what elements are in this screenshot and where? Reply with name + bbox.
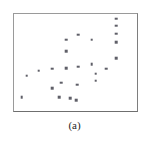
scatter-point <box>115 32 118 35</box>
scatter-point <box>115 24 118 27</box>
scatter-point <box>21 96 24 99</box>
scatter-point <box>115 18 118 21</box>
scatter-point <box>69 97 72 100</box>
figure-panel: (a) <box>0 0 149 141</box>
scatter-point <box>76 83 79 86</box>
scatter-point <box>65 38 68 41</box>
scatter-point <box>75 99 78 102</box>
scatter-point <box>77 66 80 69</box>
scatter-point <box>94 72 97 75</box>
scatter-plot-frame <box>13 13 138 112</box>
figure-caption: (a) <box>0 118 149 132</box>
scatter-points-layer <box>14 14 137 111</box>
scatter-point <box>25 74 28 77</box>
scatter-point <box>65 67 68 70</box>
scatter-point <box>77 33 80 36</box>
scatter-point <box>105 68 108 71</box>
scatter-point <box>51 87 54 90</box>
scatter-point <box>94 79 97 82</box>
scatter-point <box>115 57 118 60</box>
scatter-point <box>51 68 54 71</box>
scatter-point <box>58 96 61 99</box>
scatter-point <box>65 50 68 53</box>
scatter-point <box>115 41 118 44</box>
scatter-point <box>90 38 93 41</box>
scatter-point <box>90 63 93 66</box>
scatter-point <box>37 70 40 73</box>
scatter-point <box>60 81 63 84</box>
